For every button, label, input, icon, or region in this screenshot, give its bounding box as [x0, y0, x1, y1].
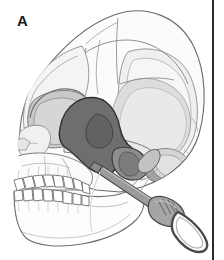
- panel-divider: [212, 0, 214, 260]
- skull-illustration: [0, 0, 224, 260]
- figure-panel: A: [0, 0, 224, 260]
- panel-label-a: A: [17, 13, 28, 29]
